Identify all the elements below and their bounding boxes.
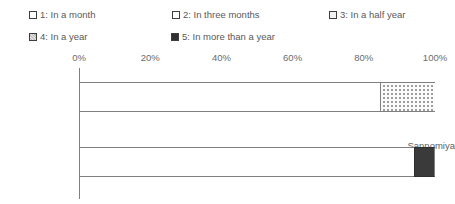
empty-square-icon [29, 11, 37, 19]
legend-item-label: 4: In a year [40, 31, 88, 42]
x-tick-label: 80% [354, 52, 373, 64]
bar-segment-series-1 [79, 147, 414, 177]
x-tick-label: 40% [212, 52, 231, 64]
legend-item-1[interactable]: 1: In a month [29, 9, 95, 20]
legend-item-label: 3: In a half year [340, 9, 405, 20]
dotted-square-icon [172, 11, 180, 19]
legend-item-5[interactable]: 5: In more than a year [171, 31, 275, 42]
x-tick-label: 20% [141, 52, 160, 64]
legend-item-label: 1: In a month [40, 9, 95, 20]
dark-square-icon [171, 33, 179, 41]
bar-segment-series-5 [414, 147, 435, 177]
light-square-icon [329, 11, 337, 19]
stacked-bar-chart: 1: In a month 2: In three months 3: In a… [0, 0, 455, 204]
bar-sannomiya [79, 82, 435, 112]
legend-item-2[interactable]: 2: In three months [172, 9, 260, 20]
legend-item-label: 5: In more than a year [182, 31, 275, 42]
bar-segment-series-1 [79, 82, 380, 112]
bar-segment-series-2 [380, 82, 435, 112]
bar-asago [79, 147, 435, 177]
x-axis-ticks: 0% 20% 40% 60% 80% 100% [0, 52, 455, 66]
legend-item-3[interactable]: 3: In a half year [329, 9, 405, 20]
legend-item-4[interactable]: 4: In a year [29, 31, 88, 42]
chart-legend: 1: In a month 2: In three months 3: In a… [0, 0, 455, 48]
x-tick-label: 0% [72, 52, 86, 64]
legend-item-label: 2: In three months [183, 9, 260, 20]
gray-square-icon [29, 33, 37, 41]
x-tick-label: 60% [283, 52, 302, 64]
x-tick-label: 100% [423, 52, 447, 64]
plot-area: 0% 20% 40% 60% 80% 100% Sannomiya Asago [0, 48, 455, 204]
